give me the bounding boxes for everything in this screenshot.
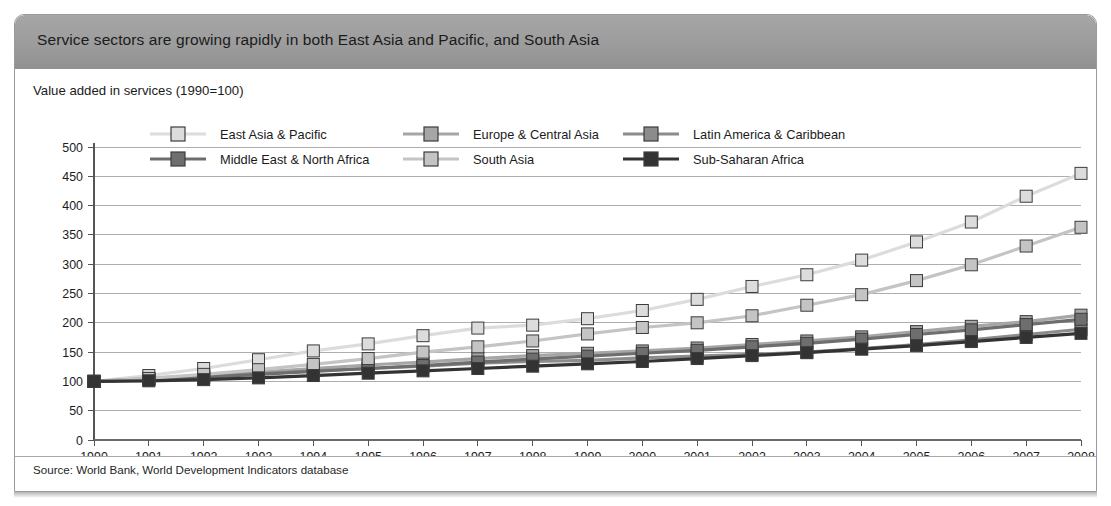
legend-swatch: [171, 127, 185, 141]
series-marker: [965, 216, 977, 228]
chart-figure: Service sectors are growing rapidly in b…: [14, 14, 1097, 492]
y-axis-label: 150: [62, 346, 83, 360]
series-marker: [1020, 331, 1032, 343]
series-marker: [801, 347, 813, 359]
legend-label: East Asia & Pacific: [220, 127, 327, 142]
series-marker: [362, 367, 374, 379]
legend-label: South Asia: [473, 152, 535, 167]
chart-plot-area: 0501001502002503003504004505001990199119…: [15, 111, 1097, 456]
figure-bottom-shadow: [14, 492, 1097, 498]
series-marker: [746, 350, 758, 362]
series-marker: [582, 313, 594, 325]
chart-subtitle: Value added in services (1990=100): [33, 83, 244, 98]
series-marker: [307, 358, 319, 370]
y-axis-label: 0: [76, 434, 83, 448]
series-marker: [1020, 319, 1032, 331]
series-marker: [636, 321, 648, 333]
legend-label: Latin America & Caribbean: [693, 127, 845, 142]
series-marker: [636, 355, 648, 367]
legend-swatch: [424, 127, 438, 141]
legend-item[interactable]: Sub-Saharan Africa: [623, 152, 805, 167]
series-marker: [253, 372, 265, 384]
series-marker: [143, 375, 155, 387]
series-marker: [911, 236, 923, 248]
series-marker: [307, 345, 319, 357]
series-marker: [362, 353, 374, 365]
series-marker: [965, 324, 977, 336]
legend-label: Europe & Central Asia: [473, 127, 600, 142]
series-marker: [472, 363, 484, 375]
y-axis-label: 100: [62, 375, 83, 389]
legend-label: Sub-Saharan Africa: [693, 152, 805, 167]
series-marker: [856, 289, 868, 301]
figure-header-bar: Service sectors are growing rapidly in b…: [15, 15, 1096, 69]
series-marker: [856, 343, 868, 355]
legend-swatch: [644, 127, 658, 141]
legend-item[interactable]: South Asia: [403, 152, 535, 167]
legend-item[interactable]: East Asia & Pacific: [150, 127, 327, 142]
legend-swatch: [171, 152, 185, 166]
series-marker: [1075, 313, 1087, 325]
legend-swatch: [644, 152, 658, 166]
series-marker: [1075, 327, 1087, 339]
series-marker: [801, 299, 813, 311]
series-marker: [911, 329, 923, 341]
series-marker: [88, 375, 100, 387]
y-axis-label: 400: [62, 199, 83, 213]
series-marker: [527, 335, 539, 347]
series-marker: [691, 293, 703, 305]
y-axis-label: 50: [69, 404, 83, 418]
series-marker: [362, 338, 374, 350]
y-axis-label: 250: [62, 287, 83, 301]
legend-item[interactable]: Latin America & Caribbean: [623, 127, 845, 142]
series-marker: [1075, 221, 1087, 233]
series-marker: [911, 340, 923, 352]
series-marker: [1020, 190, 1032, 202]
page-title: Service sectors are growing rapidly in b…: [37, 31, 599, 49]
legend-swatch: [424, 152, 438, 166]
source-note: Source: World Bank, World Development In…: [33, 463, 348, 476]
series-marker: [746, 280, 758, 292]
series-marker: [417, 365, 429, 377]
legend-label: Middle East & North Africa: [220, 152, 370, 167]
series-marker: [472, 322, 484, 334]
legend-item[interactable]: Europe & Central Asia: [403, 127, 600, 142]
series-marker: [198, 374, 210, 386]
series-marker: [801, 269, 813, 281]
series-marker: [582, 328, 594, 340]
series-marker: [417, 346, 429, 358]
series-marker: [472, 341, 484, 353]
series-marker: [746, 310, 758, 322]
y-axis-label: 350: [62, 228, 83, 242]
series-marker: [307, 370, 319, 382]
series-marker: [856, 254, 868, 266]
series-marker: [965, 259, 977, 271]
legend-item[interactable]: Middle East & North Africa: [150, 152, 370, 167]
series-marker: [1020, 240, 1032, 252]
series-marker: [965, 336, 977, 348]
y-axis-label: 450: [62, 170, 83, 184]
series-marker: [691, 317, 703, 329]
series-marker: [582, 358, 594, 370]
line-chart: 0501001502002503003504004505001990199119…: [15, 111, 1097, 456]
series-marker: [527, 360, 539, 372]
y-axis-label: 500: [62, 141, 83, 155]
series-marker: [1075, 167, 1087, 179]
source-divider: [15, 456, 1096, 457]
y-axis-label: 200: [62, 316, 83, 330]
series-marker: [911, 275, 923, 287]
series-marker: [527, 319, 539, 331]
series-marker: [417, 330, 429, 342]
series-marker: [636, 304, 648, 316]
series-marker: [691, 353, 703, 365]
y-axis-label: 300: [62, 258, 83, 272]
